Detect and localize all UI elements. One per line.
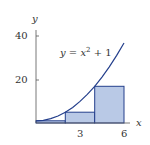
x-axis-label: x	[136, 117, 142, 128]
riemann-rect-2	[65, 112, 94, 123]
x-tick-label-6: 6	[121, 128, 127, 139]
function-label: y = x2 + 1	[59, 46, 112, 58]
riemann-sum-diagram: y 40 20 3 6 x y = x2 + 1	[0, 0, 150, 145]
riemann-rect-3	[95, 86, 124, 123]
y-axis-label: y	[31, 13, 38, 24]
x-tick-label-3: 3	[77, 128, 83, 139]
y-tick-label-20: 20	[15, 74, 28, 85]
y-tick-label-40: 40	[15, 30, 28, 41]
